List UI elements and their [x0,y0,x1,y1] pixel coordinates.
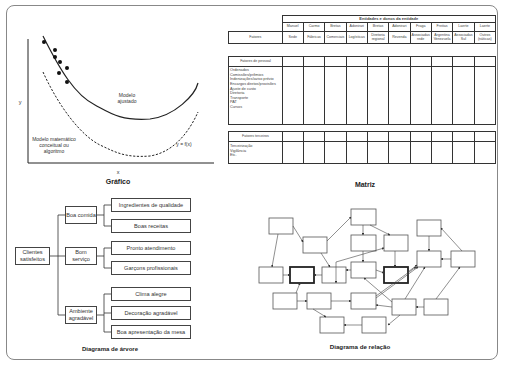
relation-caption: Diagrama de relação [320,343,400,350]
relation-graph [0,0,506,367]
